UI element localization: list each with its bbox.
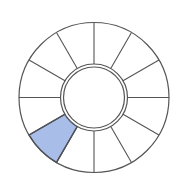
spoke-line [29, 60, 65, 81]
spoke-line [123, 60, 159, 81]
spoke-line [111, 33, 132, 69]
spoke-line [57, 33, 78, 69]
spoke-line [123, 114, 159, 135]
spoke-line [111, 127, 132, 163]
hub-inner-circle [64, 67, 125, 128]
segmented-ring-diagram [0, 0, 183, 177]
